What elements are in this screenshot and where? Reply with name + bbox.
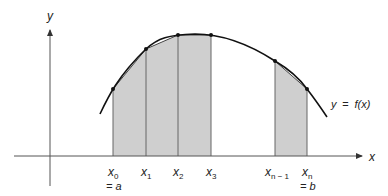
x-axis-label: x [368,150,376,164]
label-xn-eq-b: = b [300,180,316,192]
trapezoid-3 [178,35,211,156]
point-x0 [111,87,115,91]
label-x1: x1 [140,165,152,181]
y-axis-label: y [46,9,54,23]
label-x2: x2 [172,165,184,181]
curve-label-lhs: y [330,98,338,110]
curve-label-rhs: f(x) [354,98,370,110]
label-xn-1: xn − 1 [264,165,290,181]
partition-labels: x0 = a x1 x2 x3 xn − 1 xn = b [106,165,316,192]
label-x3: x3 [205,165,217,181]
label-x0-eq-a: = a [106,180,122,192]
diagram-canvas: y x y = f(x) x0 = a x1 x2 x3 xn − 1 xn =… [0,0,388,196]
point-x1 [144,47,148,51]
curve-label: y = f(x) [330,98,371,110]
point-xn [305,87,309,91]
label-x0: x0 [107,165,119,181]
point-x2 [176,33,180,37]
point-x3 [209,33,213,37]
trapezoid-1 [113,49,146,156]
label-xn: xn [301,165,312,181]
point-xn-1 [273,59,277,63]
curve-label-eq: = [342,98,348,110]
trapezoid-2 [146,35,178,156]
